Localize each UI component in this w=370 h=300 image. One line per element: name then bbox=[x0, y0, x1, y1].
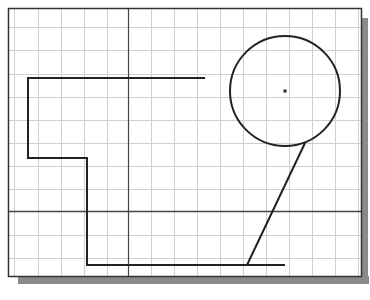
circle-center-mark bbox=[284, 90, 287, 93]
drawing-canvas[interactable] bbox=[0, 0, 370, 300]
